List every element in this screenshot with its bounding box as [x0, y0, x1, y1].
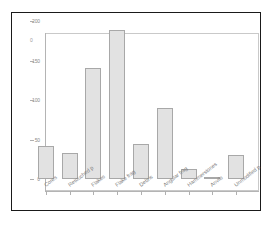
- y-axis-extra-label: 0: [30, 37, 33, 43]
- x-axis-tick: [189, 191, 190, 195]
- x-axis-tick: [141, 191, 142, 195]
- y-axis-tick: [30, 179, 34, 180]
- x-axis-tick: [70, 191, 71, 195]
- x-axis-tick: [117, 191, 118, 195]
- y-axis-tick: [30, 140, 34, 141]
- x-axis-tick: [165, 191, 166, 195]
- bar: [157, 108, 173, 179]
- x-axis-tick: [93, 191, 94, 195]
- y-axis-tick: [30, 21, 34, 22]
- figure-frame: 050100150200 0 CoresRetouched pFlakesFla…: [11, 12, 261, 211]
- bar: [109, 30, 125, 179]
- bar: [85, 68, 101, 179]
- y-axis-tick-labels: 050100150200: [24, 13, 40, 213]
- x-axis-tick: [212, 191, 213, 195]
- bar: [38, 146, 54, 179]
- x-axis-tick: [46, 191, 47, 195]
- x-axis-tick: [236, 191, 237, 195]
- y-axis-tick: [30, 61, 34, 62]
- x-axis-line: [45, 191, 259, 192]
- y-axis-tick: [30, 100, 34, 101]
